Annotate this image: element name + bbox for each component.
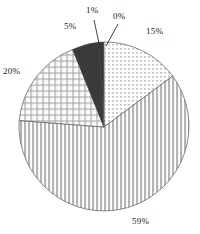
pie-label-0: 0% (113, 12, 125, 21)
pie-label-15: 15% (146, 27, 163, 36)
pie-label-59: 59% (132, 217, 149, 226)
pie-label-20: 20% (3, 67, 20, 76)
pie-label-5: 5% (64, 22, 76, 31)
pie-chart: 15% 59% 20% 5% 1% 0% (0, 0, 200, 234)
pie-label-1: 1% (86, 6, 98, 15)
pie-chart-graphic (0, 0, 200, 234)
